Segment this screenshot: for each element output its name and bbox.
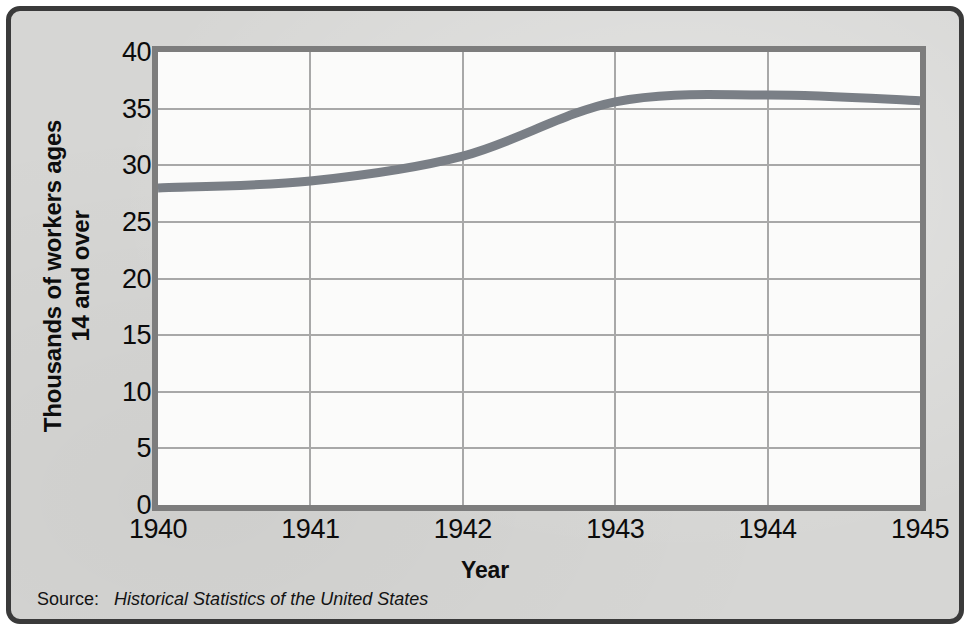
y-axis-title-line-2: 14 and over	[67, 120, 95, 432]
x-tick-label: 1945	[891, 514, 949, 545]
chart-figure: Thousands of workers ages 14 and over 05…	[6, 6, 964, 624]
y-tick-label: 10	[122, 376, 151, 407]
x-tick-label: 1944	[739, 514, 797, 545]
x-axis-tick-labels: 194019411942194319441945	[11, 514, 959, 554]
plot-inner	[158, 52, 920, 505]
x-axis-title: Year	[11, 557, 959, 584]
data-line	[158, 95, 920, 188]
y-tick-label: 25	[122, 206, 151, 237]
y-tick-label: 20	[122, 263, 151, 294]
x-tick-label: 1943	[586, 514, 644, 545]
y-tick-label: 30	[122, 150, 151, 181]
y-tick-label: 5	[136, 433, 151, 464]
x-tick-label: 1941	[281, 514, 339, 545]
source-title: Historical Statistics of the United Stat…	[114, 589, 428, 609]
y-tick-label: 35	[122, 93, 151, 124]
y-axis-title-line-1: Thousands of workers ages	[39, 120, 67, 432]
data-line-series	[158, 52, 920, 505]
source-label: Source:	[37, 589, 99, 609]
y-tick-label: 15	[122, 320, 151, 351]
y-tick-label: 40	[122, 37, 151, 68]
x-tick-label: 1942	[434, 514, 492, 545]
plot-area	[152, 46, 926, 511]
source-note: Source: Historical Statistics of the Uni…	[37, 589, 428, 610]
x-tick-label: 1940	[129, 514, 187, 545]
